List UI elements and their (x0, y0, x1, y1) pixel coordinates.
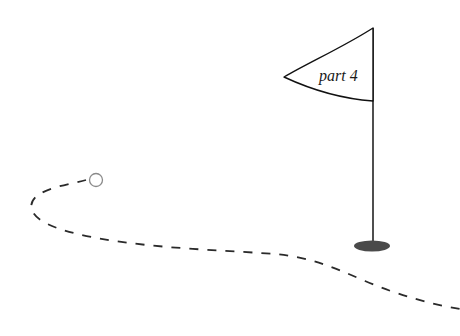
golf-ball-icon (90, 174, 103, 187)
ball-path-dashed-line (31, 180, 460, 309)
golf-illustration: part 4 (0, 0, 460, 336)
flag-banner (284, 28, 373, 101)
flag-base-disc (354, 241, 390, 252)
illustration-canvas: part 4 (0, 0, 460, 336)
flag-label-text: part 4 (318, 67, 358, 85)
